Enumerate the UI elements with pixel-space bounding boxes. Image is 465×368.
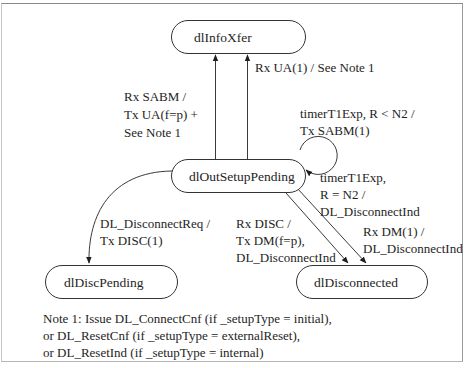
edge-label-line: Rx SABM /	[124, 89, 187, 104]
self-loop-arrow	[300, 136, 337, 174]
transition-timer-retry	[300, 136, 337, 174]
edge-label-line: Rx UA(1) / See Note 1	[255, 60, 375, 75]
edge-label-line: timerT1Exp,	[320, 170, 386, 185]
edge-label-line: DL_DisconnectReq /	[100, 216, 211, 231]
state-label: dlOutSetupPending	[189, 169, 295, 184]
label-rx-disc: Rx DISC / Tx DM(f=p), DL_DisconnectInd	[236, 216, 336, 265]
label-rx-ua: Rx UA(1) / See Note 1	[255, 60, 375, 75]
state-dlDisconnected: dlDisconnected	[297, 266, 428, 299]
edge-label-line: DL_DisconnectInd	[363, 241, 463, 256]
state-dlInfoXfer: dlInfoXfer	[172, 21, 306, 54]
label-timer-retry: timerT1Exp, R < N2 / Tx SABM(1)	[300, 106, 415, 138]
edge-label-line: See Note 1	[124, 125, 181, 140]
edge-label-line: Rx DM(1) /	[363, 224, 425, 239]
state-dlDiscPending: dlDiscPending	[46, 266, 178, 299]
note-1: Note 1: Issue DL_ConnectCnf (if _setupTy…	[43, 311, 332, 360]
state-label: dlDisconnected	[314, 275, 398, 290]
state-dlOutSetupPending: dlOutSetupPending	[172, 160, 306, 193]
edge-label-line: Tx DM(f=p),	[236, 233, 305, 248]
edge-label-line: Rx DISC /	[236, 216, 291, 231]
edge-label-line: DL_DisconnectInd	[236, 250, 336, 265]
edge-label-line: timerT1Exp, R < N2 /	[300, 106, 415, 121]
edge-label-line: DL_DisconnectInd	[320, 204, 420, 219]
label-timer-expire: timerT1Exp, R = N2 / DL_DisconnectInd	[320, 170, 420, 219]
note-line: or DL_ResetInd (if _setupType = internal…	[43, 345, 264, 360]
edge-label-line: Tx DISC(1)	[100, 233, 162, 248]
edge-label-line: R = N2 /	[320, 187, 366, 202]
edge-label-line: Tx UA(f=p) +	[124, 107, 198, 122]
label-rx-sabm: Rx SABM / Tx UA(f=p) + See Note 1	[124, 89, 198, 140]
note-line: or DL_ResetCnf (if _setupType = external…	[43, 328, 300, 343]
note-line: Note 1: Issue DL_ConnectCnf (if _setupTy…	[43, 311, 332, 326]
label-disconnect-req: DL_DisconnectReq / Tx DISC(1)	[100, 216, 211, 248]
edge-label-line: Tx SABM(1)	[300, 123, 370, 138]
state-label: dlDiscPending	[64, 275, 144, 290]
label-rx-dm: Rx DM(1) / DL_DisconnectInd	[363, 224, 463, 256]
state-label: dlInfoXfer	[194, 30, 252, 45]
state-diagram: dlInfoXfer dlOutSetupPending dlDiscPendi…	[0, 0, 465, 368]
